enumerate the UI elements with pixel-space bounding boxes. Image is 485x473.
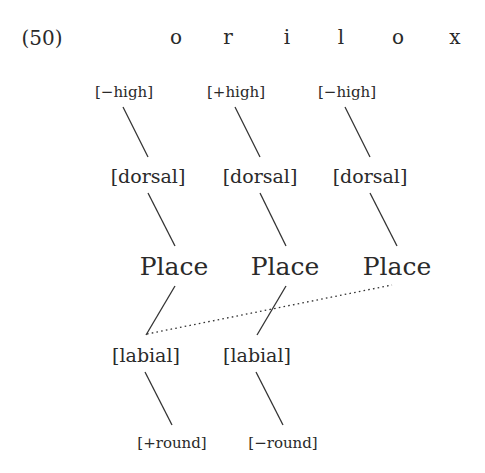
segment-4: l bbox=[338, 27, 344, 47]
line-dorsal-place-1 bbox=[148, 193, 175, 246]
height-feature-3: [−high] bbox=[318, 85, 376, 100]
segment-5: o bbox=[392, 27, 404, 47]
labial-node-1: [labial] bbox=[112, 346, 180, 365]
line-labial-round-1 bbox=[145, 372, 172, 425]
line-labial-round-2 bbox=[256, 372, 283, 425]
labial-node-2: [labial] bbox=[223, 346, 291, 365]
height-feature-2: [+high] bbox=[207, 85, 265, 100]
line-dorsal-place-2 bbox=[260, 193, 286, 246]
dotted-spread-line bbox=[147, 285, 392, 334]
example-number: (50) bbox=[21, 28, 62, 48]
association-lines bbox=[0, 0, 485, 473]
line-dorsal-place-3 bbox=[370, 193, 397, 246]
dorsal-node-1: [dorsal] bbox=[111, 167, 186, 186]
round-feature-1: [+round] bbox=[137, 436, 206, 451]
line-height-dorsal-2 bbox=[235, 107, 260, 157]
height-feature-1: [−high] bbox=[95, 85, 153, 100]
place-node-2: Place bbox=[251, 254, 320, 279]
line-place-labial-1 bbox=[146, 286, 175, 335]
segment-6: x bbox=[449, 27, 460, 47]
place-node-3: Place bbox=[363, 254, 432, 279]
dorsal-node-2: [dorsal] bbox=[223, 167, 298, 186]
segment-1: o bbox=[170, 27, 182, 47]
line-height-dorsal-3 bbox=[345, 107, 370, 157]
line-height-dorsal-1 bbox=[123, 107, 148, 157]
dorsal-node-3: [dorsal] bbox=[333, 167, 408, 186]
place-node-1: Place bbox=[140, 254, 209, 279]
segment-3: i bbox=[284, 27, 290, 47]
round-feature-2: [−round] bbox=[248, 436, 317, 451]
segment-2: r bbox=[223, 27, 233, 47]
